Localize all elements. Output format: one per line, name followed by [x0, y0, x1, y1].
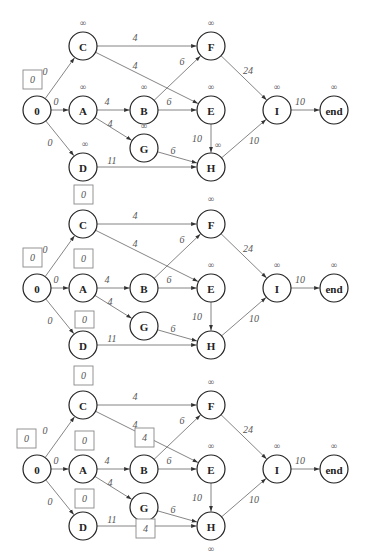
- node-label: H: [207, 162, 216, 174]
- infinity-label-E: ∞: [207, 441, 215, 451]
- node-label: I: [275, 105, 279, 117]
- edge-B-E: 6: [158, 455, 197, 469]
- infinity-label-E: ∞: [207, 82, 215, 92]
- edge-weight-label: 10: [295, 455, 305, 466]
- distance-value: 0: [24, 433, 29, 444]
- node-G: G: [130, 493, 158, 521]
- distance-box-0: 0: [23, 70, 42, 89]
- edge-B-F: 6: [154, 234, 200, 278]
- node-label: 0: [34, 105, 40, 117]
- edge-weight-label: 10: [192, 492, 202, 503]
- edge-weight-label: 6: [167, 455, 172, 466]
- infinity-label-I: ∞: [273, 441, 281, 451]
- edge-I-end: 10: [291, 455, 320, 469]
- edge-arrow-icon: [95, 295, 132, 318]
- edge-I-end: 10: [291, 96, 320, 110]
- edge-arrow-icon: [222, 478, 266, 516]
- node-I: I: [263, 274, 291, 302]
- edge-weight-label: 4: [105, 96, 110, 107]
- node-label: end: [325, 283, 342, 295]
- edge-weight-label: 4: [133, 210, 138, 221]
- node-label: E: [207, 105, 214, 117]
- panel-step-1: 000444466611102410100CADBGFEHIend∞∞∞∞∞∞∞…: [23, 18, 348, 181]
- node-0: 0: [23, 274, 51, 302]
- distance-value: 0: [30, 74, 35, 85]
- node-H: H: [197, 512, 225, 540]
- edge-A-B: 4: [97, 455, 130, 469]
- node-F: F: [197, 210, 225, 238]
- distance-box-D: 0: [75, 489, 94, 508]
- edge-weight-label: 6: [180, 415, 185, 426]
- node-D: D: [69, 153, 97, 181]
- node-label: G: [140, 502, 149, 514]
- distance-box-B: 4: [135, 428, 154, 447]
- infinity-label-B: ∞: [140, 82, 148, 92]
- edge-C-F: 4: [97, 210, 197, 224]
- node-label: A: [79, 283, 87, 295]
- edge-G-H: 6: [157, 504, 197, 522]
- edge-H-I: 10: [222, 478, 266, 516]
- edge-E-H: 10: [192, 483, 211, 512]
- node-A: A: [69, 455, 97, 483]
- node-A: A: [69, 274, 97, 302]
- node-label: F: [208, 219, 215, 231]
- graph-diagram: 000444466611102410100CADBGFEHIend∞∞∞∞∞∞∞…: [0, 0, 367, 560]
- infinity-label-D: ∞: [81, 139, 89, 149]
- node-label: 0: [34, 283, 40, 295]
- node-label: B: [140, 105, 148, 117]
- node-I: I: [263, 96, 291, 124]
- edge-arrow-icon: [154, 56, 200, 100]
- edge-A-G: 4: [95, 117, 132, 140]
- distance-value: 0: [30, 252, 35, 263]
- edge-weight-label: 0: [48, 315, 53, 326]
- edge-weight-label: 6: [180, 56, 185, 67]
- node-C: C: [69, 210, 97, 238]
- edge-weight-label: 11: [107, 514, 116, 525]
- edge-weight-label: 4: [108, 118, 113, 129]
- edge-arrow-icon: [222, 297, 266, 335]
- edge-0-A: 0: [51, 455, 69, 469]
- edge-G-H: 6: [157, 323, 197, 341]
- edge-0-C: 0: [43, 417, 75, 458]
- edge-arrow-icon: [157, 511, 197, 522]
- node-end: end: [320, 455, 348, 483]
- node-F: F: [197, 391, 225, 419]
- edge-arrow-icon: [157, 152, 197, 163]
- node-B: B: [130, 274, 158, 302]
- edge-arrow-icon: [221, 415, 267, 459]
- edge-weight-label: 0: [54, 274, 59, 285]
- distance-box-D: 0: [75, 311, 94, 328]
- node-label: E: [207, 283, 214, 295]
- edge-arrow-icon: [154, 234, 200, 278]
- node-label: H: [207, 521, 216, 533]
- node-label: E: [207, 464, 214, 476]
- node-end: end: [320, 96, 348, 124]
- edge-weight-label: 10: [192, 133, 202, 144]
- infinity-label-I: ∞: [273, 260, 281, 270]
- node-I: I: [263, 455, 291, 483]
- edge-weight-label: 0: [54, 455, 59, 466]
- node-B: B: [130, 96, 158, 124]
- edge-weight-label: 4: [133, 60, 138, 71]
- node-label: C: [79, 41, 87, 53]
- edge-E-H: 10: [192, 124, 211, 153]
- edge-G-H: 6: [157, 145, 197, 163]
- edge-weight-label: 0: [48, 496, 53, 507]
- infinity-label-H: ∞: [207, 544, 215, 554]
- node-C: C: [69, 32, 97, 60]
- edge-weight-label: 6: [167, 96, 172, 107]
- edge-weight-label: 0: [43, 244, 48, 255]
- edge-weight-label: 10: [249, 494, 259, 505]
- distance-box-C: 0: [74, 185, 93, 204]
- node-label: F: [208, 400, 215, 412]
- node-E: E: [197, 96, 225, 124]
- edge-weight-label: 0: [43, 66, 48, 77]
- node-label: C: [79, 400, 87, 412]
- edge-weight-label: 6: [167, 274, 172, 285]
- edge-E-H: 10: [192, 302, 211, 331]
- node-label: I: [275, 464, 279, 476]
- edge-arrow-icon: [45, 58, 74, 99]
- distance-box-0: 0: [23, 248, 42, 267]
- distance-value: 0: [82, 493, 87, 504]
- infinity-label-I: ∞: [273, 82, 281, 92]
